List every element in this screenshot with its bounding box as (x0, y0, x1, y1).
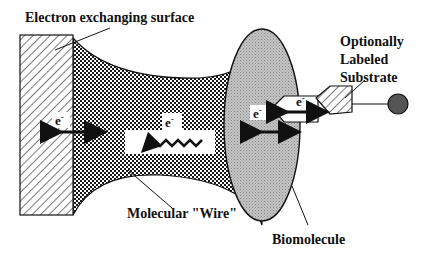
surface-label: Electron exchanging surface (25, 10, 194, 25)
substrate-label-line3: Substrate (340, 70, 398, 85)
wire-label: Molecular "Wire" (127, 206, 237, 221)
substrate-label-line2: Labeled (340, 52, 388, 67)
biomolecule-ellipse (224, 29, 300, 221)
substrate-label-line1: Optionally (340, 34, 404, 49)
biomolecule-leader-line (292, 186, 308, 225)
biomolecule-label: Biomolecule (272, 232, 345, 247)
substrate-shape (316, 86, 352, 114)
electron-transfer-diagram: e- e- e- e- Electron exchanging surface … (0, 0, 430, 256)
label-dot-icon (388, 94, 408, 114)
